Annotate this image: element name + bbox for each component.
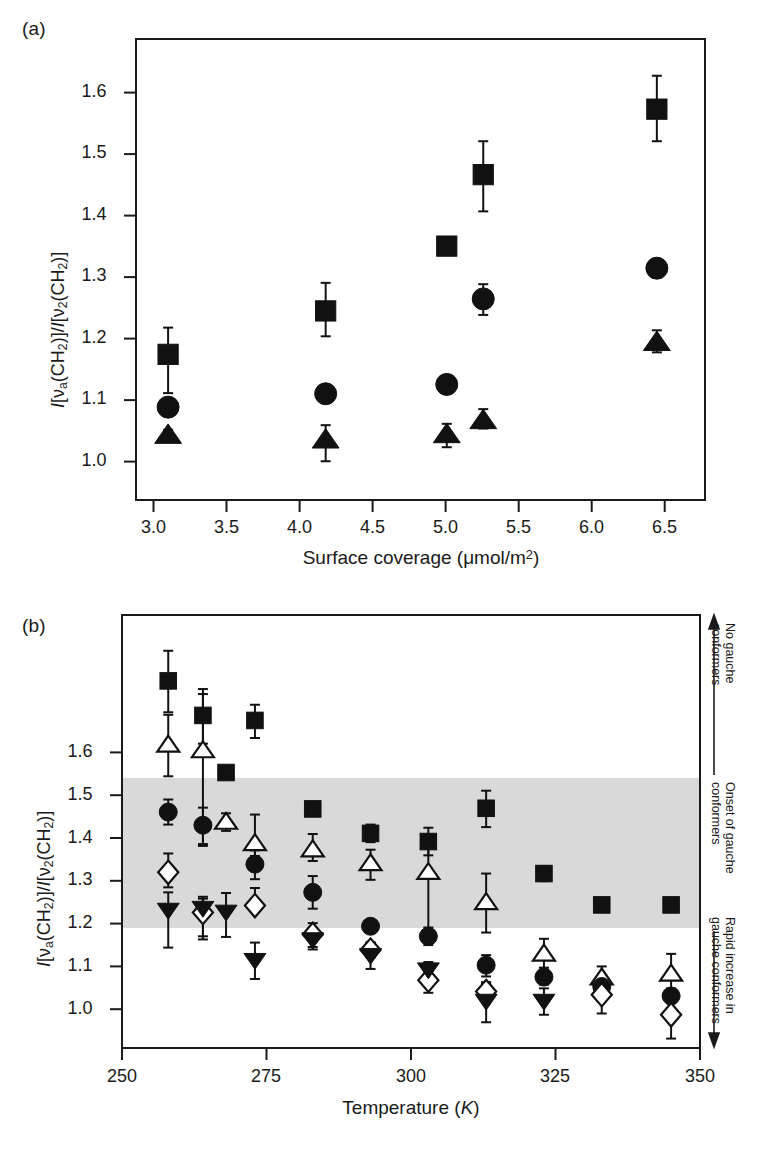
panel-b-ytick-1.0: 1.0 <box>58 998 102 1019</box>
panel-a-ytick-1.3: 1.3 <box>72 265 116 286</box>
data-point-filled-square <box>420 833 437 850</box>
panel-b: (b) <box>0 585 775 1173</box>
panel-b-xtick-350: 350 <box>670 1066 730 1087</box>
data-point-filled-circle <box>157 396 179 418</box>
data-point-filled-circle <box>159 803 177 821</box>
data-point-filled-square <box>218 764 235 781</box>
data-point-filled-circle <box>477 956 495 974</box>
panel-b-x-axis-title: Temperature (K) <box>226 1097 596 1119</box>
panel-b-ytick-1.1: 1.1 <box>58 955 102 976</box>
panel-a-plot <box>0 0 775 585</box>
panel-b-y-axis-title: I[νa(CH2)]/I[ν2(CH2)] <box>34 811 56 967</box>
panel-a-xtick-5.0: 5.0 <box>419 517 472 538</box>
annotation-onset-gauche: Onset of gaucheconformers <box>708 782 737 874</box>
panel-a-x-ticks <box>154 500 665 512</box>
annotation-no-gauche: No gaucheconformers <box>708 623 737 686</box>
panel-a-ytick-1.1: 1.1 <box>72 388 116 409</box>
panel-a-xtick-3.5: 3.5 <box>200 517 253 538</box>
data-point-filled-square <box>158 344 178 364</box>
data-point-filled-circle <box>436 373 458 395</box>
data-point-filled-square <box>247 712 264 729</box>
data-point-filled-square <box>536 865 553 882</box>
data-point-filled-square <box>362 825 379 842</box>
data-point-filled-square <box>437 236 457 256</box>
annotation-rapid-increase: Rapid increase ingauche conformers <box>708 917 737 1024</box>
panel-a-xtick-6.0: 6.0 <box>565 517 618 538</box>
panel-a-y-ticks <box>124 93 136 462</box>
data-point-filled-circle <box>315 383 337 405</box>
panel-b-x-ticks <box>122 1048 700 1060</box>
panel-a-ytick-1.4: 1.4 <box>72 204 116 225</box>
panel-b-ytick-1.4: 1.4 <box>58 827 102 848</box>
panel-a-y-axis-title: I[νa(CH2)]/I[ν2(CH2)] <box>48 252 70 408</box>
panel-b-ytick-1.5: 1.5 <box>58 784 102 805</box>
panel-a-x-axis-title: Surface coverage (μmol/m2) <box>236 547 606 569</box>
panel-a-xtick-4.5: 4.5 <box>346 517 399 538</box>
data-point-filled-circle <box>419 927 437 945</box>
data-point-filled-square <box>473 165 493 185</box>
data-point-filled-circle <box>646 257 668 279</box>
panel-a-xtick-5.5: 5.5 <box>492 517 545 538</box>
panel-b-y-ticks <box>110 752 122 1009</box>
data-point-filled-circle <box>304 883 322 901</box>
panel-a-ytick-1.5: 1.5 <box>72 142 116 163</box>
data-point-filled-square <box>195 707 212 724</box>
panel-a-ytick-1.0: 1.0 <box>72 450 116 471</box>
panel-b-xtick-325: 325 <box>525 1066 585 1087</box>
figure-root: (a) <box>0 0 775 1173</box>
panel-b-ytick-1.6: 1.6 <box>58 741 102 762</box>
panel-b-xtick-250: 250 <box>92 1066 152 1087</box>
data-point-filled-circle <box>194 816 212 834</box>
panel-b-ytick-1.3: 1.3 <box>58 869 102 890</box>
data-point-filled-square <box>160 673 177 690</box>
data-point-filled-square <box>663 897 680 914</box>
data-point-filled-circle <box>246 855 264 873</box>
panel-a-xtick-4.0: 4.0 <box>273 517 326 538</box>
panel-b-xtick-275: 275 <box>236 1066 296 1087</box>
panel-b-ytick-1.2: 1.2 <box>58 912 102 933</box>
data-point-filled-square <box>316 301 336 321</box>
data-point-filled-square <box>478 800 495 817</box>
panel-a-ytick-1.6: 1.6 <box>72 81 116 102</box>
panel-a-frame <box>136 39 705 500</box>
panel-a-xtick-6.5: 6.5 <box>638 517 691 538</box>
data-point-filled-square <box>647 99 667 119</box>
panel-a-xtick-3.0: 3.0 <box>127 517 180 538</box>
panel-b-xtick-300: 300 <box>381 1066 441 1087</box>
data-point-filled-circle <box>362 917 380 935</box>
data-point-filled-square <box>304 801 321 818</box>
data-point-filled-square <box>593 897 610 914</box>
panel-a-ytick-1.2: 1.2 <box>72 327 116 348</box>
data-point-filled-circle <box>472 288 494 310</box>
data-point-filled-circle <box>535 968 553 986</box>
panel-a: (a) <box>0 0 775 585</box>
